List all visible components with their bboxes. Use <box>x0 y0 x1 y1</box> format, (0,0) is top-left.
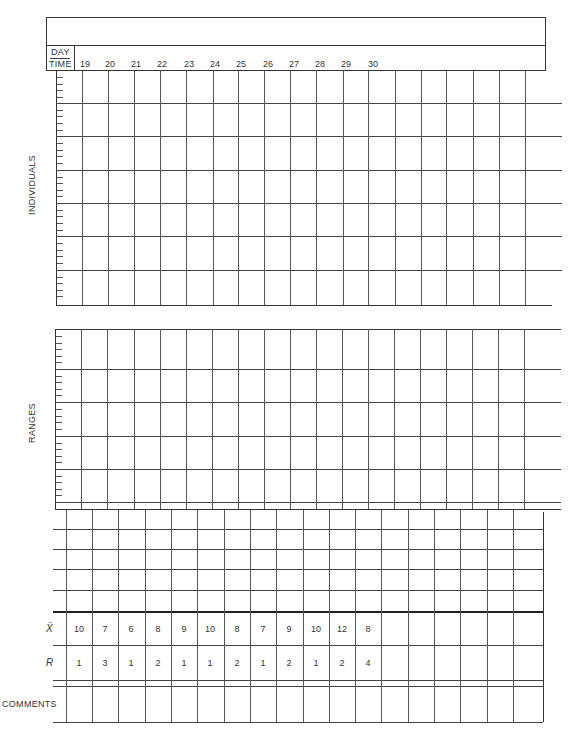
range-label: R <box>46 657 54 668</box>
xbar-cell: 8 <box>355 624 381 634</box>
xbar-cell: 9 <box>171 624 197 634</box>
xbar-cell: 7 <box>92 624 118 634</box>
xbar-cell: 10 <box>66 624 92 634</box>
xbar-cell: 12 <box>329 624 355 634</box>
range-cell: 2 <box>276 658 302 668</box>
range-cell: 1 <box>118 658 144 668</box>
range-cell: 2 <box>224 658 250 668</box>
range-cell: 4 <box>355 658 381 668</box>
range-cell: 2 <box>145 658 171 668</box>
xbar-cell: 10 <box>303 624 329 634</box>
range-cell: 3 <box>92 658 118 668</box>
range-cell: 1 <box>171 658 197 668</box>
xbar-cell: 8 <box>145 624 171 634</box>
xbar-cell: 7 <box>250 624 276 634</box>
xbar-cell: 9 <box>276 624 302 634</box>
range-cell: 1 <box>66 658 92 668</box>
range-cell: 1 <box>303 658 329 668</box>
xbar-cell: 10 <box>197 624 223 634</box>
xbar-cell: 6 <box>118 624 144 634</box>
xbar-label: X̄ <box>46 623 53 634</box>
xbar-cell: 8 <box>224 624 250 634</box>
range-cell: 1 <box>197 658 223 668</box>
range-cell: 1 <box>250 658 276 668</box>
comments-label: COMMENTS <box>2 699 57 709</box>
range-cell: 2 <box>329 658 355 668</box>
summary-divider <box>53 611 543 613</box>
